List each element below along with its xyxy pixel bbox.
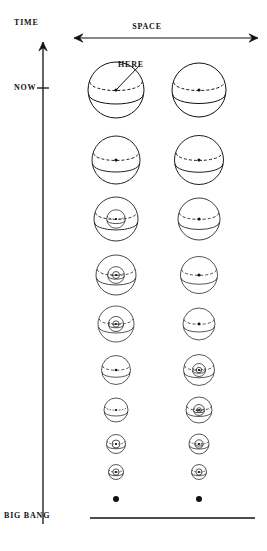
universe-sphere-right-3 <box>181 257 218 294</box>
sphere-equator-arc <box>89 94 143 104</box>
space-axis-label: SPACE <box>132 22 162 31</box>
sphere-center-dot <box>198 443 200 445</box>
sphere-equator-arc <box>181 278 217 284</box>
now-tick-label: NOW <box>14 83 36 92</box>
sphere-equator-arc <box>175 164 223 172</box>
sphere-equator-arc <box>173 94 225 103</box>
universe-sphere-left-1 <box>92 136 140 184</box>
sphere-equator-arc <box>107 220 125 223</box>
sphere-center-dot <box>115 471 117 473</box>
spacetime-diagram-svg <box>0 0 267 551</box>
time-axis-label: TIME <box>14 18 39 27</box>
nested-sphere <box>195 440 203 448</box>
here-annotation-label: HERE <box>118 60 144 69</box>
sphere-center-dot <box>197 158 200 161</box>
sphere-equator-arc <box>102 372 130 377</box>
universe-sphere-right-4 <box>183 308 215 340</box>
universe-sphere-left-6 <box>104 398 128 422</box>
sphere-center-dot <box>115 274 117 276</box>
sphere-center-dot <box>197 273 200 276</box>
sphere-center-dot <box>115 323 117 325</box>
diagram-canvas: TIME NOW BIG BANG SPACE HERE <box>0 0 267 551</box>
sphere-center-dot <box>198 323 201 326</box>
sphere-equator-arc <box>183 327 214 332</box>
sphere-center-dot <box>197 88 200 91</box>
big-bang-point-right <box>196 496 202 502</box>
sphere-equator-arc <box>104 412 127 416</box>
sphere-center-dot <box>115 369 118 372</box>
universe-sphere-right-1 <box>175 136 224 185</box>
universe-sphere-right-2 <box>178 198 220 240</box>
universe-sphere-left-5 <box>102 356 131 385</box>
sphere-equator-arc <box>179 222 220 229</box>
sphere-center-dot <box>198 369 200 371</box>
big-bang-point-left <box>113 496 119 502</box>
sphere-center-dot <box>115 443 117 445</box>
sphere-center-dot <box>197 217 200 220</box>
universe-sphere-right-0 <box>172 63 226 117</box>
sphere-center-dot <box>114 158 117 161</box>
sphere-center-dot <box>198 409 200 411</box>
sphere-center-dot <box>115 409 117 411</box>
here-leader-line <box>116 66 139 90</box>
big-bang-label: BIG BANG <box>4 511 50 520</box>
sphere-center-dot <box>198 471 200 473</box>
sphere-center-dot <box>115 218 117 220</box>
sphere-equator-arc <box>93 164 140 172</box>
